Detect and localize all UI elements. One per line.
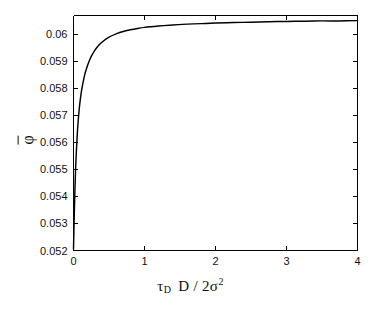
y-tick-label: 0.053 xyxy=(40,217,68,229)
y-tick-label: 0.06 xyxy=(46,28,67,40)
y-axis-label: φ xyxy=(10,118,44,162)
figure-panel: 0.0520.0530.0540.0550.0560.0570.0580.059… xyxy=(0,0,381,310)
x-tick-label: 4 xyxy=(354,255,360,267)
y-tick-label: 0.057 xyxy=(40,109,68,121)
x-tick-label: 1 xyxy=(141,255,147,267)
x-axis-label: τD D / 2σ2 xyxy=(0,276,381,295)
sigma-superscript: 2 xyxy=(218,276,224,287)
x-tick-label: 0 xyxy=(70,255,76,267)
sigma-symbol: σ xyxy=(210,278,218,294)
y-tick-label: 0.056 xyxy=(40,136,68,148)
x-tick-label: 3 xyxy=(283,255,289,267)
chart-canvas: 0.0520.0530.0540.0550.0560.0570.0580.059… xyxy=(0,0,381,310)
axis-frame xyxy=(74,16,358,251)
y-tick-label: 0.052 xyxy=(40,245,68,257)
y-tick-label: 0.054 xyxy=(40,190,68,202)
x-tick-label: 2 xyxy=(212,255,218,267)
phi-bar-symbol: φ xyxy=(18,135,36,144)
y-tick-label: 0.058 xyxy=(40,82,68,94)
data-curve xyxy=(74,21,358,250)
y-tick-label: 0.055 xyxy=(40,163,68,175)
xlabel-middle: D / 2 xyxy=(178,278,210,294)
y-axis-label-text: φ xyxy=(18,135,36,144)
y-tick-label: 0.059 xyxy=(40,55,68,67)
